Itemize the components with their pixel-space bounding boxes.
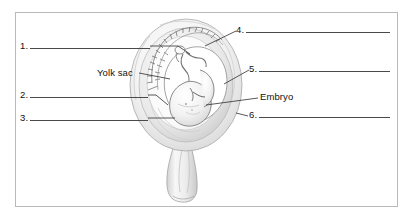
- label-embryo: Embryo: [260, 92, 293, 102]
- answer-number-2: 2.: [20, 90, 28, 100]
- label-yolk-sac: Yolk sac: [97, 68, 133, 78]
- answer-number-1: 1.: [20, 41, 28, 51]
- leader-line-6: [236, 113, 248, 116]
- answer-line-3[interactable]: [30, 120, 148, 121]
- answer-line-5[interactable]: [259, 71, 390, 72]
- answer-number-6: 6.: [249, 110, 257, 120]
- answer-number-5: 5.: [249, 64, 257, 74]
- figure-canvas: 1. 2. 3. 4. 5. 6. Yolk sac Embryo: [0, 0, 415, 219]
- answer-line-6[interactable]: [259, 117, 390, 118]
- answer-number-4: 4.: [236, 25, 244, 35]
- answer-line-1[interactable]: [30, 48, 150, 49]
- answer-line-4[interactable]: [246, 32, 390, 33]
- answer-line-2[interactable]: [30, 97, 148, 98]
- answer-number-3: 3.: [20, 113, 28, 123]
